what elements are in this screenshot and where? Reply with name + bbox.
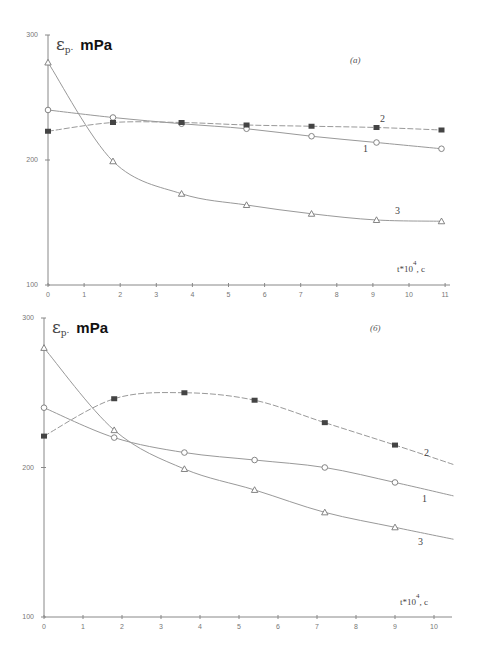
x-label-unit: , c — [417, 264, 426, 274]
x-tick-label: 0 — [46, 291, 50, 298]
x-tick-label: 7 — [299, 291, 303, 298]
triangle-marker-icon — [41, 345, 47, 351]
triangle-marker-icon — [45, 59, 51, 65]
x-axis-label: t*104, c — [397, 259, 425, 274]
square-marker-icon — [322, 420, 328, 425]
series-label: 1 — [422, 493, 427, 504]
epsilon-symbol: ε — [52, 317, 61, 337]
x-label-main: t*10 — [400, 597, 417, 607]
square-marker-icon — [45, 129, 51, 134]
series-label: 3 — [395, 205, 400, 216]
y-tick-label: 300 — [26, 31, 38, 38]
series-label: 2 — [424, 447, 429, 458]
circle-marker-icon — [322, 465, 328, 471]
circle-marker-icon — [374, 140, 380, 146]
circle-marker-icon — [111, 435, 117, 441]
x-tick-label: 6 — [276, 623, 280, 630]
x-tick-label: 5 — [227, 291, 231, 298]
circle-marker-icon — [439, 146, 445, 152]
panel-label: (б) — [370, 323, 381, 333]
triangle-marker-icon — [181, 466, 187, 472]
square-marker-icon — [438, 128, 444, 133]
y-tick-label: 200 — [22, 464, 34, 471]
x-tick-label: 4 — [198, 623, 202, 630]
figure: 10020030001234567891011εp. mPa(a)t*104, … — [0, 0, 482, 672]
circle-marker-icon — [110, 115, 116, 121]
y-tick-label: 300 — [22, 314, 34, 321]
x-tick-label: 8 — [354, 623, 358, 630]
series-3: 3 — [41, 345, 454, 547]
series-3: 3 — [45, 59, 445, 223]
circle-marker-icon — [309, 133, 315, 139]
series-label: 3 — [418, 536, 423, 547]
series-line — [44, 393, 454, 465]
square-marker-icon — [244, 123, 250, 128]
x-tick-label: 1 — [81, 623, 85, 630]
separator: . — [67, 325, 73, 335]
square-marker-icon — [374, 125, 380, 130]
x-tick-label: 0 — [42, 623, 46, 630]
x-label-unit: , c — [420, 597, 429, 607]
square-marker-icon — [181, 390, 187, 395]
unit: mPa — [76, 319, 108, 336]
y-axis-label: εp. mPa — [56, 34, 113, 55]
series-label: 1 — [363, 143, 368, 154]
x-tick-label: 9 — [393, 623, 397, 630]
x-tick-label: 3 — [154, 291, 158, 298]
series-label: 2 — [380, 113, 385, 124]
square-marker-icon — [252, 398, 258, 403]
x-tick-label: 6 — [263, 291, 267, 298]
x-tick-label: 4 — [190, 291, 194, 298]
x-tick-label: 7 — [315, 623, 319, 630]
x-tick-label: 2 — [118, 291, 122, 298]
x-tick-label: 10 — [405, 291, 413, 298]
circle-marker-icon — [392, 480, 398, 486]
square-marker-icon — [309, 124, 315, 129]
chart-a: 10020030001234567891011εp. mPa(a)t*104, … — [26, 31, 450, 298]
square-marker-icon — [392, 443, 398, 448]
x-tick-label: 2 — [120, 623, 124, 630]
square-marker-icon — [41, 434, 47, 439]
y-tick-label: 200 — [26, 156, 38, 163]
square-marker-icon — [111, 396, 117, 401]
y-axis-label: εp. mPa — [52, 317, 109, 338]
y-tick-label: 100 — [22, 613, 34, 620]
x-tick-label: 5 — [237, 623, 241, 630]
x-tick-label: 10 — [430, 623, 438, 630]
circle-marker-icon — [45, 107, 51, 113]
circle-marker-icon — [41, 405, 47, 411]
square-marker-icon — [179, 120, 185, 125]
x-tick-label: 1 — [82, 291, 86, 298]
x-label-main: t*10 — [397, 264, 414, 274]
panel-label: (a) — [350, 55, 361, 65]
chart-b: 100200300012345678910εp. mPa(б)t*104, c1… — [22, 314, 453, 630]
circle-marker-icon — [252, 457, 258, 463]
square-marker-icon — [110, 120, 116, 125]
epsilon-symbol: ε — [56, 34, 65, 54]
x-axis-label: t*104, c — [400, 592, 428, 607]
x-tick-label: 11 — [441, 291, 448, 298]
x-tick-label: 8 — [335, 291, 339, 298]
unit: mPa — [80, 36, 112, 53]
y-tick-label: 100 — [26, 281, 38, 288]
series-2: 2 — [41, 390, 454, 464]
series-line — [48, 63, 441, 222]
separator: . — [71, 42, 77, 52]
x-tick-label: 3 — [159, 623, 163, 630]
x-tick-label: 9 — [371, 291, 375, 298]
circle-marker-icon — [182, 450, 188, 456]
